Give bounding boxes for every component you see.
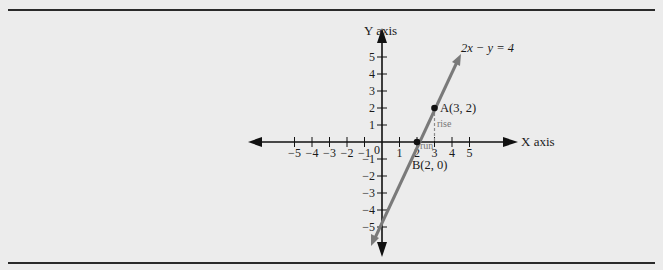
x-tick-label: 4 xyxy=(449,146,455,160)
y-tick-label: −1 xyxy=(362,152,375,166)
line-up-arrow-icon xyxy=(452,54,461,66)
rise-label: rise xyxy=(437,118,452,129)
y-tick-label: −5 xyxy=(362,220,375,234)
run-label: run xyxy=(420,140,433,151)
x-tick-label: −3 xyxy=(323,146,336,160)
x-axis-left-arrow-icon xyxy=(248,137,262,147)
y-axis-label: Y axis xyxy=(364,23,397,38)
x-axis-right-arrow-icon xyxy=(503,137,518,147)
equation-label: 2x − y = 4 xyxy=(461,41,514,55)
y-tick-label: −3 xyxy=(362,186,375,200)
y-tick-label: 5 xyxy=(369,50,375,64)
x-tick-label: −5 xyxy=(288,146,301,160)
y-axis-down-arrow-icon xyxy=(377,242,387,257)
y-tick-label: 4 xyxy=(369,67,375,81)
x-axis-label: X axis xyxy=(521,134,555,149)
x-tick-label: −2 xyxy=(341,146,354,160)
x-tick-label: 1 xyxy=(397,146,403,160)
y-tick-label: −4 xyxy=(362,203,375,217)
y-tick-label: 3 xyxy=(369,84,375,98)
x-tick-label: 5 xyxy=(467,146,473,160)
y-axis: 5 4 3 2 1 −1 −2 −3 −4 −5 Y axis xyxy=(362,23,397,257)
point-a xyxy=(431,105,438,112)
y-tick-label: −2 xyxy=(362,169,375,183)
point-b-label: B(2, 0) xyxy=(412,158,447,172)
coordinate-plane: −5 −4 −3 −2 −1 0 1 2 3 4 5 X axis xyxy=(0,0,663,270)
equation-line xyxy=(371,54,461,246)
x-tick-label: −4 xyxy=(306,146,319,160)
y-tick-label: 1 xyxy=(369,118,375,132)
point-a-label: A(3, 2) xyxy=(440,101,476,115)
x-axis: −5 −4 −3 −2 −1 0 1 2 3 4 5 X axis xyxy=(248,134,555,160)
point-b xyxy=(414,139,421,146)
y-tick-label: 2 xyxy=(369,101,375,115)
